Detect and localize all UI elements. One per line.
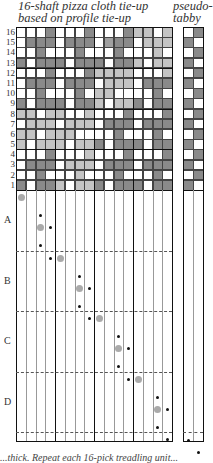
treadle-mark-gray xyxy=(76,285,83,292)
pseudo-treadle-line xyxy=(193,190,194,442)
section-label-b: B xyxy=(4,275,11,286)
block-frame xyxy=(133,27,173,69)
shaft-label: 16 xyxy=(0,27,15,37)
shaft-label: 10 xyxy=(0,88,15,98)
treadle-line xyxy=(123,190,124,442)
shaft-label: 12 xyxy=(0,68,15,78)
block-frame xyxy=(94,68,134,110)
pseudo-tabby-frame xyxy=(183,27,204,191)
pseudo-treadle-mark xyxy=(187,439,190,442)
treadle-line xyxy=(104,190,105,442)
section-divider xyxy=(16,372,172,373)
block-frame xyxy=(94,27,134,69)
block-frame xyxy=(16,68,56,110)
treadle-mark-black xyxy=(49,226,52,229)
shaft-label: 6 xyxy=(0,129,15,139)
treadle-line xyxy=(84,190,85,442)
section-divider xyxy=(16,251,172,252)
shaft-label: 2 xyxy=(0,170,15,180)
treadle-line xyxy=(55,190,56,442)
treadle-line xyxy=(94,190,95,442)
shaft-label: 11 xyxy=(0,78,15,88)
treadle-mark-gray xyxy=(96,315,103,322)
treadle-mark-gray xyxy=(154,406,161,413)
pseudo-tabby-treadling xyxy=(183,190,203,442)
block-frame xyxy=(94,149,134,191)
treadle-mark-black xyxy=(156,396,159,399)
treadle-mark-black xyxy=(39,244,42,247)
shaft-label: 4 xyxy=(0,149,15,159)
treadle-line xyxy=(114,190,115,442)
section-label-a: A xyxy=(4,214,11,225)
block-frame xyxy=(55,149,95,191)
treadle-mark-gray xyxy=(135,376,142,383)
treadle-mark-black xyxy=(117,365,120,368)
block-frame xyxy=(55,109,95,151)
block-frame xyxy=(16,27,56,69)
block-frame xyxy=(55,68,95,110)
treadle-mark-black xyxy=(117,335,120,338)
treadle-mark-black xyxy=(49,257,52,260)
shaft-label: 14 xyxy=(0,47,15,57)
tie-up-grid xyxy=(16,27,172,190)
treadle-line xyxy=(162,190,163,442)
treadle-line xyxy=(16,190,17,442)
pseudo-treadle-line xyxy=(203,190,204,442)
treadle-mark-black xyxy=(166,408,169,411)
treadle-mark-black xyxy=(88,287,91,290)
section-divider xyxy=(16,311,172,312)
shaft-label: 9 xyxy=(0,98,15,108)
block-frame xyxy=(16,109,56,151)
treadle-mark-black xyxy=(127,347,130,350)
treadle-mark-gray xyxy=(37,224,44,231)
treadle-mark-black xyxy=(78,275,81,278)
shaft-label: 7 xyxy=(0,119,15,129)
block-frame xyxy=(16,149,56,191)
treadle-mark-gray xyxy=(18,194,25,201)
section-divider xyxy=(16,432,172,433)
treadle-mark-gray xyxy=(115,345,122,352)
treadle-line xyxy=(26,190,27,442)
shaft-label: 3 xyxy=(0,159,15,169)
block-frame xyxy=(133,109,173,151)
shaft-label: 13 xyxy=(0,58,15,68)
treadle-line xyxy=(153,190,154,442)
treadling-area xyxy=(16,190,172,442)
shaft-label: 5 xyxy=(0,139,15,149)
block-frame xyxy=(94,109,134,151)
shaft-label: 15 xyxy=(0,37,15,47)
treadling-bottom-edge xyxy=(16,441,172,442)
treadle-line xyxy=(75,190,76,442)
pseudo-tabby-title: pseudo- tabby xyxy=(173,1,213,24)
treadle-line xyxy=(143,190,144,442)
treadle-line xyxy=(65,190,66,442)
treadle-mark-black xyxy=(39,214,42,217)
pseudo-treadle-line xyxy=(183,190,184,442)
diagram-title: 16-shaft pizza cloth tie-up based on pro… xyxy=(18,1,148,24)
block-frame xyxy=(55,27,95,69)
section-label-c: C xyxy=(4,335,11,346)
caption-text: ...thick. Repeat each 16-pick treadling … xyxy=(0,452,210,463)
pseudo-tabby-grid xyxy=(183,27,203,190)
treadle-line xyxy=(45,190,46,442)
shaft-label: 8 xyxy=(0,109,15,119)
treadle-line xyxy=(133,190,134,442)
block-frame xyxy=(133,68,173,110)
pseudo-section-divider xyxy=(183,432,203,433)
treadle-mark-gray xyxy=(57,255,64,262)
treadle-mark-black xyxy=(166,438,169,441)
treadle-mark-black xyxy=(88,317,91,320)
shaft-number-labels: 16151413121110987654321 xyxy=(0,27,15,190)
treadle-mark-black xyxy=(127,378,130,381)
shaft-label: 1 xyxy=(0,180,15,190)
treadle-mark-black xyxy=(156,426,159,429)
pseudo-bottom-edge xyxy=(183,441,203,442)
treadle-line xyxy=(172,190,173,442)
section-label-d: D xyxy=(4,396,11,407)
treadle-mark-black xyxy=(78,305,81,308)
block-frame xyxy=(133,149,173,191)
